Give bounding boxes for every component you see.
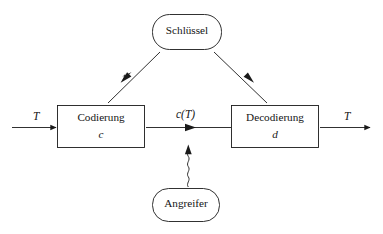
node-schluessel-shape[interactable] [153,15,222,50]
diagram-canvas: Schlüssel Codierung c Decodierung d Angr… [0,0,383,234]
node-codierung-shape[interactable] [58,106,145,148]
edge-ciphertext-arrowhead [185,124,196,131]
node-decodierung-shape[interactable] [232,106,319,148]
edge-angreifer-squiggle [187,151,189,187]
node-angreifer-shape[interactable] [153,189,220,222]
edge-key-to-decodierung-line [214,52,267,103]
edge-key-to-decodierung-arrowhead [244,72,254,82]
diagram-vector-layer [0,0,383,234]
edge-key-to-codierung-line [108,52,160,103]
edge-angreifer-arrowhead [185,145,192,155]
